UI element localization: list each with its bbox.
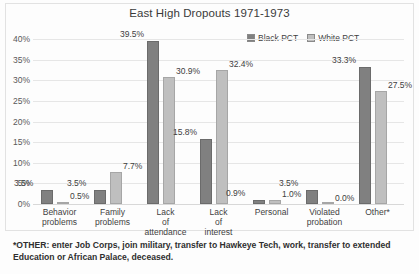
bar-black[interactable] <box>306 190 318 204</box>
bar-black[interactable] <box>94 190 106 204</box>
bar-group: 39.5%30.9% <box>139 39 192 204</box>
data-label-black: 39.5% <box>120 29 144 39</box>
data-label-black: 33.3% <box>332 55 356 65</box>
bar-black[interactable] <box>253 200 265 204</box>
bar-white[interactable] <box>110 172 122 204</box>
bar-white[interactable] <box>57 202 69 204</box>
data-label-black: 3.5% <box>279 178 298 188</box>
y-axis-tick-label: 30% <box>13 75 30 85</box>
data-label-black: 0.9% <box>226 188 245 198</box>
bar-group: 3.5%7.7% <box>86 39 139 204</box>
data-label-black: 15.8% <box>173 127 197 137</box>
y-axis-tick-label: 25% <box>13 96 30 106</box>
chart-footnote: *OTHER: enter Job Corps, join military, … <box>13 239 405 263</box>
gridline <box>33 204 404 205</box>
bar-group: 15.8%32.4% <box>192 39 245 204</box>
y-axis-tick-label: 40% <box>13 34 30 44</box>
y-axis-tick-label: 20% <box>13 117 30 127</box>
bar-black[interactable] <box>41 190 53 204</box>
x-axis-category-label: Other* <box>346 207 410 217</box>
bar-black[interactable] <box>200 139 212 204</box>
bar-white[interactable] <box>322 202 334 204</box>
bar-group: 33.3%27.5% <box>351 39 404 204</box>
bar-white[interactable] <box>216 70 228 204</box>
y-axis-tick-label: 10% <box>13 158 30 168</box>
bar-white[interactable] <box>163 77 175 204</box>
data-label-black: 3.5% <box>67 178 86 188</box>
bar-black[interactable] <box>147 41 159 204</box>
y-axis-tick-label: 15% <box>13 137 30 147</box>
plot-area: Behaviorproblems3.5%0.5%Familyproblems3.… <box>33 39 404 204</box>
data-label-white: 27.5% <box>388 80 412 90</box>
bar-black[interactable] <box>359 67 371 204</box>
chart-title: East High Dropouts 1971-1973 <box>0 7 419 19</box>
data-label-black: 3.5% <box>14 178 33 188</box>
bar-white[interactable] <box>375 91 387 204</box>
y-axis-tick-label: 35% <box>13 55 30 65</box>
chart-container: East High Dropouts 1971-1973 Black PCT W… <box>0 0 419 274</box>
bar-white[interactable] <box>269 200 281 204</box>
